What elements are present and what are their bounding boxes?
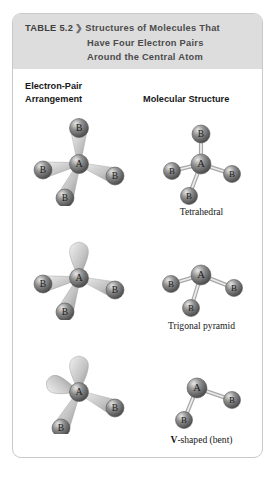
- svg-text:A: A: [197, 269, 205, 280]
- svg-text:B: B: [188, 303, 194, 313]
- molecular-structure-diagram: BBBA: [139, 228, 263, 320]
- svg-text:B: B: [76, 122, 83, 133]
- svg-text:A: A: [75, 158, 83, 169]
- molecular-structure-diagram: BBBBA: [139, 114, 263, 206]
- svg-text:B: B: [168, 279, 174, 289]
- table-title-text-1: Structures of Molecules That: [85, 23, 220, 33]
- column-header-left-line-1: Electron-Pair: [25, 80, 82, 93]
- electron-pair-arrangement-cell: BBA: [17, 342, 142, 456]
- svg-text:B: B: [112, 171, 118, 181]
- svg-text:B: B: [58, 423, 64, 433]
- column-headers: Electron-Pair Arrangement Molecular Stru…: [13, 69, 262, 116]
- electron-pair-arrangement-cell: BBBBA: [17, 114, 142, 228]
- molecular-structure-cell: BBBATrigonal pyramid: [139, 228, 263, 342]
- table-row: BBBABBBATrigonal pyramid: [13, 228, 262, 342]
- svg-text:B: B: [229, 395, 235, 405]
- svg-text:A: A: [75, 386, 83, 397]
- table-rows: BBBBABBBBATetrahedralBBBABBBATrigonal py…: [13, 114, 262, 456]
- svg-text:B: B: [231, 283, 237, 293]
- column-header-left-line-2: Arrangement: [25, 93, 82, 106]
- caption-text: Trigonal pyramid: [168, 320, 235, 331]
- molecular-structure-diagram: BBA: [139, 342, 263, 434]
- caption-text: Tetrahedral: [180, 206, 224, 217]
- column-header-electron-pair-arrangement: Electron-Pair Arrangement: [25, 80, 82, 106]
- electron-pair-diagram: BBBA: [17, 228, 142, 320]
- svg-text:B: B: [112, 285, 118, 295]
- svg-text:B: B: [40, 165, 46, 175]
- svg-text:B: B: [62, 193, 68, 203]
- svg-text:A: A: [197, 158, 205, 169]
- molecular-structure-cell: BBAV-shaped (bent): [139, 342, 263, 456]
- caption-text: -shaped (bent): [177, 434, 232, 445]
- column-header-molecular-structure: Molecular Structure: [143, 93, 229, 106]
- table-title-line-2: Have Four Electron Pairs: [25, 36, 252, 51]
- table-number-label: TABLE 5.2: [25, 23, 73, 33]
- electron-pair-diagram: BBA: [17, 342, 142, 434]
- molecular-structure-cell: BBBBATetrahedral: [139, 114, 263, 228]
- table-row: BBABBAV-shaped (bent): [13, 342, 262, 456]
- table-title-line-1: TABLE 5.2❯Structures of Molecules That: [25, 21, 252, 36]
- electron-pair-diagram: BBBBA: [17, 114, 142, 206]
- electron-pair-arrangement-cell: BBBA: [17, 228, 142, 342]
- svg-text:A: A: [193, 382, 201, 393]
- svg-text:B: B: [181, 415, 187, 425]
- molecular-structure-caption: Tetrahedral: [139, 206, 263, 217]
- table-row: BBBBABBBBATetrahedral: [13, 114, 262, 228]
- table-card: TABLE 5.2❯Structures of Molecules That H…: [12, 13, 263, 458]
- svg-text:B: B: [229, 169, 235, 179]
- svg-text:B: B: [40, 279, 46, 289]
- molecular-structure-caption: Trigonal pyramid: [139, 320, 263, 331]
- table-figure: TABLE 5.2❯Structures of Molecules That H…: [0, 0, 275, 485]
- svg-text:B: B: [169, 166, 175, 176]
- svg-text:B: B: [112, 403, 118, 413]
- chevron-right-icon: ❯: [73, 23, 85, 33]
- svg-text:B: B: [62, 307, 68, 317]
- table-title-band: TABLE 5.2❯Structures of Molecules That H…: [13, 14, 262, 69]
- svg-text:B: B: [186, 191, 192, 201]
- molecular-structure-caption: V-shaped (bent): [139, 434, 263, 445]
- svg-text:A: A: [75, 272, 83, 283]
- svg-text:B: B: [198, 129, 204, 139]
- table-title-line-3: Around the Central Atom: [25, 50, 252, 65]
